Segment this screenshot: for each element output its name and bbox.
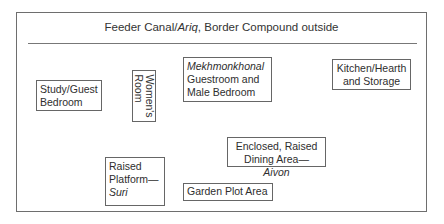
canal-divider-line: [28, 43, 417, 44]
room-mekhmonkhonal: Mekhmonkhonal Guestroom and Male Bedroom: [183, 57, 272, 102]
room-label-line: Enclosed, Raised: [231, 140, 322, 153]
room-label-line: Kitchen/Hearth: [336, 62, 407, 75]
compound-boundary: [16, 12, 427, 212]
room-label-line: Platform—: [109, 173, 161, 186]
room-label-line: and Storage: [336, 75, 407, 88]
compound-header: Feeder Canal/Ariq, Border Compound outsi…: [16, 21, 427, 33]
header-suffix: , Border Compound outside: [198, 21, 339, 33]
room-label-line: Male Bedroom: [187, 86, 268, 99]
room-study-guest-bedroom: Study/Guest Bedroom: [36, 80, 102, 111]
header-prefix: Feeder Canal/: [105, 21, 178, 33]
room-dining-area-aivon: Enclosed, Raised Dining Area—Aivon: [227, 137, 326, 167]
room-garden-plot-area: Garden Plot Area: [183, 183, 273, 201]
room-label-line: Bedroom: [40, 96, 98, 109]
room-label-line: Garden Plot Area: [187, 185, 269, 198]
room-label-italic: Suri: [109, 186, 128, 198]
room-label-line: Guestroom and: [187, 73, 268, 86]
room-raised-platform-suri: Raised Platform— Suri: [105, 157, 165, 206]
room-label-line: Study/Guest: [40, 83, 98, 96]
room-label-prefix: Dining Area—: [244, 153, 309, 165]
room-womens-room: Women's Room: [132, 70, 156, 122]
room-label-line: Raised: [109, 160, 161, 173]
room-label-line: Women's: [144, 74, 155, 117]
room-label-italic: Mekhmonkhonal: [187, 60, 264, 72]
room-kitchen-hearth-storage: Kitchen/Hearth and Storage: [332, 59, 411, 90]
room-label-line: Room: [133, 74, 144, 117]
header-italic: Ariq: [177, 21, 197, 33]
room-label-italic: Aivon: [263, 166, 289, 178]
